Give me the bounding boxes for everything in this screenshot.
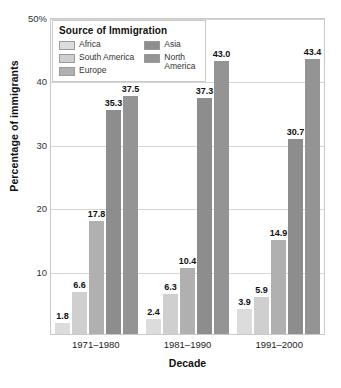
bar-value-label: 35.3: [105, 98, 123, 108]
bar-slot: 5.9: [254, 19, 269, 334]
bar-value-label: 10.4: [179, 256, 197, 266]
y-tick-label: 30: [3, 139, 47, 150]
bar-slot: 43.0: [214, 19, 229, 334]
legend: Source of Immigration AfricaSouth Americ…: [52, 20, 206, 82]
bar-value-label: 30.7: [287, 127, 305, 137]
bar-slot: 43.4: [305, 19, 320, 334]
bar-value-label: 1.8: [56, 311, 69, 321]
bar-value-label: 43.0: [213, 49, 231, 59]
y-tick-label: 40: [3, 76, 47, 87]
legend-item-label: Asia: [164, 40, 181, 49]
bar[interactable]: [237, 309, 252, 334]
bar-slot: 14.9: [271, 19, 286, 334]
bar-value-label: 17.8: [88, 209, 106, 219]
bar[interactable]: [180, 268, 195, 334]
bar[interactable]: [89, 221, 104, 334]
legend-item-label: South America: [79, 53, 134, 62]
bar-slot: 3.9: [237, 19, 252, 334]
bar[interactable]: [106, 110, 121, 334]
x-axis-ticks: 1971–19801981–19901991–2000: [50, 339, 325, 350]
legend-title: Source of Immigration: [59, 25, 199, 36]
bar[interactable]: [163, 294, 178, 334]
legend-item-label: Africa: [79, 40, 101, 49]
legend-swatch-icon: [59, 67, 75, 76]
bar[interactable]: [55, 323, 70, 334]
y-axis-ticks: 1020304050%: [0, 18, 47, 335]
legend-item-label: Europe: [79, 66, 106, 75]
bar-slot: 30.7: [288, 19, 303, 334]
legend-column-right: AsiaNorth America: [144, 40, 199, 76]
legend-item-label: North America: [164, 53, 195, 71]
legend-swatch-icon: [59, 41, 75, 50]
y-tick-label: 20: [3, 203, 47, 214]
bar-value-label: 3.9: [238, 297, 251, 307]
bar[interactable]: [288, 139, 303, 334]
legend-swatch-icon: [144, 41, 160, 50]
legend-column-left: AfricaSouth AmericaEurope: [59, 40, 138, 76]
bar[interactable]: [146, 319, 161, 334]
legend-item[interactable]: Europe: [59, 66, 138, 76]
bar-value-label: 2.4: [147, 307, 160, 317]
bar-group: 3.95.914.930.743.4: [233, 19, 324, 334]
bar-chart: Percentage of immigrants 1020304050% 1.8…: [0, 0, 341, 388]
bar-value-label: 37.5: [122, 84, 140, 94]
legend-item[interactable]: South America: [59, 53, 138, 63]
bar-value-label: 6.3: [164, 282, 177, 292]
bar[interactable]: [197, 98, 212, 334]
y-tick-label: 10: [3, 266, 47, 277]
y-tick-label: 50%: [3, 13, 47, 24]
bar[interactable]: [72, 292, 87, 334]
bar[interactable]: [123, 96, 138, 334]
x-tick-label: 1971–1980: [50, 339, 142, 350]
x-tick-label: 1991–2000: [233, 339, 325, 350]
x-axis-title: Decade: [50, 357, 325, 369]
legend-item[interactable]: North America: [144, 53, 199, 71]
bar[interactable]: [305, 59, 320, 334]
bar-value-label: 14.9: [270, 228, 288, 238]
legend-swatch-icon: [59, 54, 75, 63]
legend-item[interactable]: Asia: [144, 40, 199, 50]
bar-value-label: 37.3: [196, 86, 214, 96]
legend-item[interactable]: Africa: [59, 40, 138, 50]
bar-value-label: 5.9: [255, 285, 268, 295]
bar[interactable]: [214, 61, 229, 334]
bar[interactable]: [271, 240, 286, 334]
x-tick-label: 1981–1990: [142, 339, 234, 350]
bar-value-label: 6.6: [73, 280, 86, 290]
bar[interactable]: [254, 297, 269, 334]
bar-value-label: 43.4: [304, 47, 322, 57]
legend-swatch-icon: [144, 54, 160, 63]
